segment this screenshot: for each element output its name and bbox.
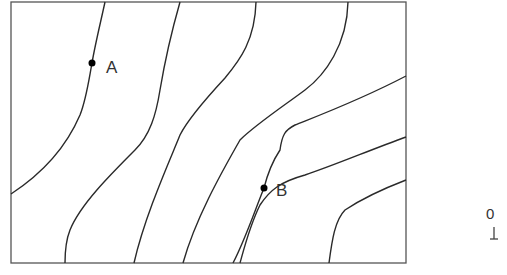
point-a-marker [89,60,96,67]
scale-bar-icon [489,226,499,240]
point-a-label: A [106,58,117,78]
contour-line-6 [240,137,406,263]
scale-zero-label: 0 [486,205,494,222]
contour-line-7 [329,180,406,263]
contour-line-3 [134,2,256,263]
point-b-marker [261,185,268,192]
contour-map [0,0,507,275]
contour-line-1 [11,2,105,194]
contour-line-2 [65,2,180,263]
map-frame [11,2,406,263]
point-b-label: B [276,181,287,201]
contour-line-4 [183,2,348,263]
